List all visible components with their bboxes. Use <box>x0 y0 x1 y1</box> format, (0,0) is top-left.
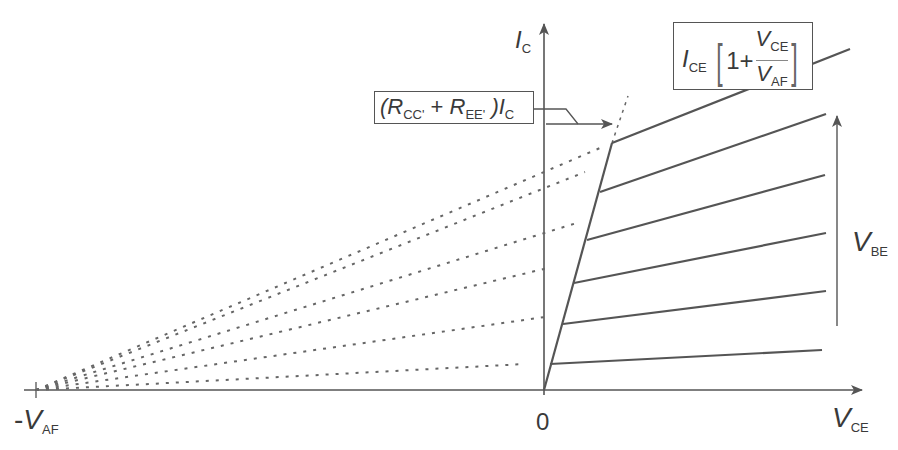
x-axis-label: VCE <box>832 402 869 435</box>
early-extrapolation-lines <box>36 148 600 390</box>
saturation-line <box>544 143 612 390</box>
curve-5 <box>600 114 826 192</box>
curve-1 <box>550 350 822 364</box>
saturation-resistance-box: (RCC' + REE' )IC <box>374 91 534 124</box>
vbe-label: VBE <box>852 226 888 259</box>
origin-label: 0 <box>536 408 549 436</box>
left-bracket: [ <box>717 38 723 84</box>
saturation-extension <box>612 96 628 143</box>
neg-vaf-label: -VAF <box>14 404 59 437</box>
right-bracket: ] <box>792 38 798 84</box>
saturation-leader <box>534 109 578 124</box>
curve-2 <box>563 291 826 324</box>
curve-3 <box>574 233 826 283</box>
y-axis-label: IC <box>515 26 531 56</box>
fraction: VCEVAF <box>756 27 789 94</box>
early-effect-formula-box: ICE [1+VCEVAF] <box>673 22 813 90</box>
